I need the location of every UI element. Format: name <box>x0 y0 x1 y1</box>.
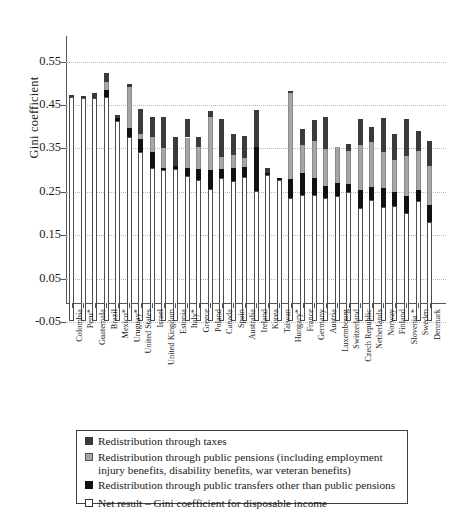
x-axis-label: Korea <box>271 309 280 329</box>
segment-net <box>242 177 247 321</box>
segment-transfers <box>219 169 224 178</box>
x-axis-label: Guatemala <box>98 309 107 345</box>
bar-taiwan[interactable] <box>277 61 282 321</box>
bar-denmark[interactable] <box>427 61 432 321</box>
bar-guatemala[interactable] <box>92 61 97 321</box>
x-axis-label: United States <box>144 309 153 353</box>
x-axis-label: Ireland <box>260 309 269 333</box>
segment-transfers <box>392 192 397 206</box>
legend-item[interactable]: Net result – Gini coefficient for dispos… <box>85 497 401 510</box>
x-tick-mark <box>106 303 107 308</box>
segment-net <box>69 97 74 321</box>
x-tick-mark <box>383 303 384 308</box>
x-tick-mark <box>233 303 234 308</box>
segment-net <box>161 170 166 321</box>
x-tick-mark <box>372 303 373 308</box>
segment-net <box>346 192 351 321</box>
segment-transfers <box>115 118 120 121</box>
net-marker <box>85 499 93 507</box>
bar-spain[interactable] <box>231 61 236 321</box>
segment-pensions <box>104 82 109 90</box>
y-tick-label: 0.35 <box>28 140 61 155</box>
bar-united-kingdom[interactable] <box>161 61 166 321</box>
bar-austria[interactable] <box>323 61 328 321</box>
transfer-marker <box>85 481 93 489</box>
bar-korea[interactable] <box>265 61 270 321</box>
x-tick-mark <box>418 303 419 308</box>
bar-peru[interactable] <box>81 61 86 321</box>
bar-colombia[interactable] <box>69 61 74 321</box>
bar-czech-republic[interactable] <box>358 61 363 321</box>
x-axis-label: Hungary* <box>294 309 303 342</box>
legend-label: Redistribution through public transfers … <box>98 479 395 492</box>
x-tick-mark <box>164 303 165 308</box>
bar-israel[interactable] <box>150 61 155 321</box>
segment-transfers <box>242 167 247 177</box>
bar-switzerland[interactable] <box>346 61 351 321</box>
bar-greece[interactable] <box>196 61 201 321</box>
segment-taxes <box>300 129 305 145</box>
bar-luxembourg[interactable] <box>335 61 340 321</box>
bar-germany[interactable] <box>312 61 317 321</box>
x-axis-label: Peru* <box>86 309 95 328</box>
segment-taxes <box>115 115 120 117</box>
bar-poland[interactable] <box>208 61 213 321</box>
bar-mexico[interactable] <box>115 61 120 321</box>
bar-netherlands[interactable] <box>369 61 374 321</box>
bar-brazil[interactable] <box>104 61 109 321</box>
bar-uruguay[interactable] <box>127 61 132 321</box>
segment-taxes <box>392 134 397 160</box>
segment-transfers <box>335 183 340 196</box>
segment-transfers <box>185 168 190 176</box>
x-tick-mark <box>349 303 350 308</box>
segment-pensions <box>346 151 351 185</box>
y-tick-label: 0.05 <box>28 271 61 286</box>
x-axis-label: Sweden <box>421 309 430 335</box>
bar-estonia[interactable] <box>173 61 178 321</box>
x-axis-label: Finland <box>398 309 407 334</box>
segment-pensions <box>381 152 386 188</box>
y-tick-label: 0.45 <box>28 97 61 112</box>
bar-sweden[interactable] <box>416 61 421 321</box>
segment-pensions <box>404 156 409 196</box>
legend-item[interactable]: Redistribution through public transfers … <box>85 479 401 492</box>
segment-pensions <box>335 147 340 183</box>
bar-finland[interactable] <box>392 61 397 321</box>
segment-net <box>127 137 132 321</box>
segment-transfers <box>196 169 201 180</box>
segment-pensions <box>127 87 132 127</box>
segment-transfers <box>277 178 282 180</box>
legend-item[interactable]: Redistribution through public pensions (… <box>85 451 401 476</box>
bar-norway[interactable] <box>381 61 386 321</box>
x-tick-mark <box>337 303 338 308</box>
bar-canada[interactable] <box>219 61 224 321</box>
x-tick-mark <box>83 303 84 308</box>
bar-france[interactable] <box>300 61 305 321</box>
segment-taxes <box>219 119 224 157</box>
bar-slovenia[interactable] <box>404 61 409 321</box>
segment-transfers <box>104 90 109 97</box>
segment-taxes <box>69 95 74 97</box>
segment-transfers <box>300 173 305 195</box>
x-axis-label: Slovenia * <box>410 309 419 344</box>
segment-pensions <box>138 134 143 138</box>
x-axis-label: Brazil <box>110 309 119 329</box>
bar-australia[interactable] <box>242 61 247 321</box>
x-axis-label: Norway <box>387 309 396 336</box>
y-tick-label: -0.05 <box>28 314 61 329</box>
segment-taxes <box>242 136 247 158</box>
bar-hungary[interactable] <box>288 61 293 321</box>
bar-united-states[interactable] <box>138 61 143 321</box>
bar-ireland[interactable] <box>254 61 259 321</box>
segment-net <box>277 180 282 321</box>
segment-pensions <box>392 160 397 191</box>
x-tick-mark <box>268 303 269 308</box>
bar-italy[interactable] <box>185 61 190 321</box>
plot-area: 0.550.450.350.250.150.05-0.05 <box>66 40 446 322</box>
legend-item[interactable]: Redistribution through taxes <box>85 435 401 448</box>
x-tick-mark <box>395 303 396 308</box>
segment-net <box>173 169 178 321</box>
segment-net <box>115 121 120 321</box>
segment-pensions <box>185 138 190 169</box>
